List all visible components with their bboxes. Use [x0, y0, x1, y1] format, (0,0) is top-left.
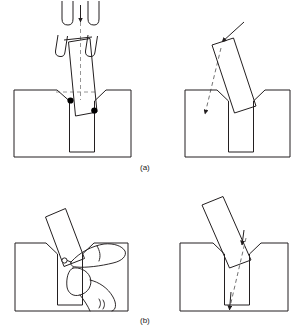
- panel-bottom-left: [15, 209, 128, 312]
- contact-point-right: [91, 107, 97, 113]
- hand-lower-edge: [80, 295, 90, 311]
- workpiece-block: [180, 243, 288, 311]
- gripper-finger-upper-right: [88, 1, 99, 25]
- contact-point: [62, 258, 67, 263]
- hand-index-crease: [97, 246, 100, 261]
- figure-root: (a) (b): [0, 0, 297, 335]
- caption-b: (b): [140, 316, 150, 325]
- hand-wrinkle-1: [99, 299, 101, 308]
- contact-point-left: [67, 97, 73, 103]
- hand-wrinkle-2: [103, 300, 105, 309]
- panel-bottom-right: [180, 197, 288, 312]
- workpiece-block: [185, 90, 290, 157]
- peg-tilted: [212, 38, 256, 113]
- peg-tilted: [69, 39, 98, 117]
- panel-top-left: [14, 1, 131, 157]
- gripper-finger-upper-left: [62, 1, 73, 25]
- workpiece-block: [15, 243, 128, 311]
- insertion-path-dashed: [230, 238, 246, 307]
- arrowhead-lower: [230, 292, 232, 310]
- hand-palm-contour: [90, 280, 116, 311]
- panel-top-right: [185, 22, 290, 157]
- reaction-arrow-dashed: [205, 48, 221, 114]
- caption-a: (a): [140, 163, 150, 172]
- force-arrow-solid: [222, 22, 244, 42]
- hand-thumb-and-finger: [66, 244, 125, 311]
- hand-thumb: [67, 268, 91, 296]
- gripper-finger-lower-left: [55, 35, 67, 57]
